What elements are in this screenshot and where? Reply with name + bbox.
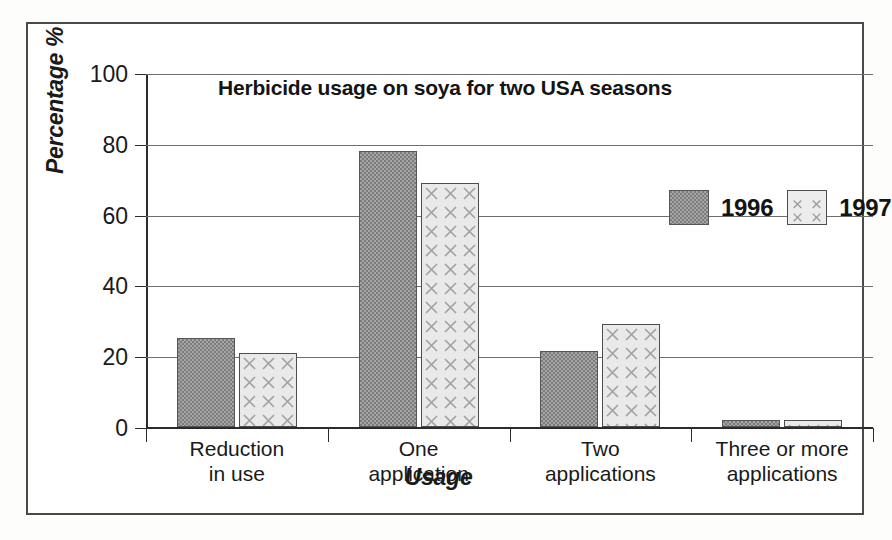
bar-1997-cat1[interactable] (421, 183, 479, 427)
y-tick-40 (135, 286, 146, 287)
bar-hatch-pattern-icon (240, 354, 296, 426)
legend-label-1996: 1996 (721, 194, 773, 222)
gridline-80 (146, 145, 873, 146)
legend-item-1997[interactable]: 1997 (787, 190, 891, 225)
y-tick-100 (135, 74, 146, 75)
legend-swatch-1997-icon (787, 190, 827, 225)
bar-1996-cat2[interactable] (540, 351, 598, 427)
y-tick-20 (135, 357, 146, 358)
bar-1997-cat2[interactable] (602, 324, 660, 427)
legend-swatch-1996-icon (669, 190, 709, 225)
bar-1996-cat0[interactable] (177, 338, 235, 427)
y-tick-label-80: 80 (102, 131, 128, 158)
bar-hatch-pattern-icon (785, 421, 841, 426)
y-tick-0 (135, 428, 146, 429)
bar-hatch-pattern-icon (422, 184, 478, 426)
gridline-100 (146, 74, 873, 75)
y-tick-label-40: 40 (102, 273, 128, 300)
y-tick-60 (135, 216, 146, 217)
plot-area: 020406080100 1996 (146, 74, 873, 428)
legend-label-1997: 1997 (839, 194, 891, 222)
y-tick-label-60: 60 (102, 202, 128, 229)
y-axis-line (146, 74, 148, 429)
bar-1997-cat3[interactable] (784, 420, 842, 427)
chart-figure: Herbicide usage on soya for two USA seas… (26, 22, 864, 515)
y-tick-80 (135, 145, 146, 146)
y-axis-title: Percentage % (42, 0, 69, 174)
bar-1996-cat3[interactable] (722, 420, 780, 427)
y-tick-label-100: 100 (90, 61, 128, 88)
legend-item-1996[interactable]: 1996 (669, 190, 773, 225)
bar-1996-cat1[interactable] (359, 151, 417, 427)
bar-hatch-pattern-icon (603, 325, 659, 426)
chart-legend: 1996 1997 (669, 190, 891, 225)
gridline-40 (146, 286, 873, 287)
y-tick-label-20: 20 (102, 344, 128, 371)
x-axis-title: Usage (0, 464, 877, 491)
bar-1997-cat0[interactable] (239, 353, 297, 427)
